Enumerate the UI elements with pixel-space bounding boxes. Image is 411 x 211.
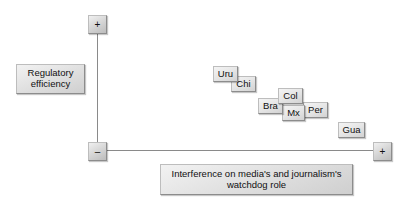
- data-point-gua: Gua: [338, 122, 365, 138]
- x-axis-line: [97, 150, 378, 151]
- y-axis-negative-marker: –: [88, 142, 107, 161]
- y-axis-line: [97, 30, 98, 152]
- data-point-per: Per: [303, 102, 328, 118]
- scatter-plot-figure: + – + Regulatory efficiency Interference…: [0, 0, 411, 211]
- data-point-col: Col: [278, 88, 303, 104]
- y-axis-positive-marker: +: [88, 15, 107, 34]
- x-axis-label: Interference on media's and journalism's…: [160, 164, 353, 195]
- y-axis-label: Regulatory efficiency: [16, 64, 85, 94]
- data-point-uru: Uru: [213, 66, 238, 82]
- x-axis-positive-marker: +: [373, 142, 392, 161]
- data-point-mx: Mx: [282, 105, 305, 121]
